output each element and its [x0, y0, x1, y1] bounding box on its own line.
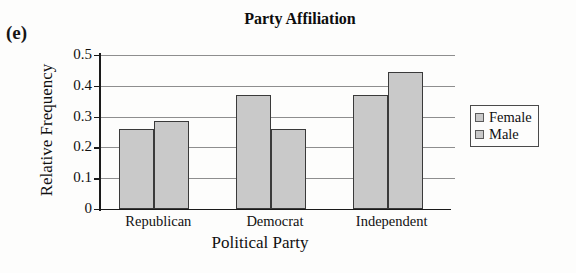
- y-axis-tick-label-wrap: 0.5: [48, 46, 92, 62]
- legend-swatch-icon: [475, 130, 484, 139]
- bar-republican-female: [119, 129, 154, 209]
- chart-title: Party Affiliation: [190, 10, 410, 28]
- y-axis-tick: [94, 209, 101, 210]
- legend-swatch-icon: [475, 113, 484, 122]
- bar-independent-female: [353, 95, 388, 209]
- figure-panel: (e) Party Affiliation Relative Frequency…: [0, 0, 576, 273]
- legend-item-male: Male: [475, 126, 532, 143]
- y-axis-tick-label: 0.1: [52, 169, 92, 186]
- x-axis-label: Political Party: [150, 233, 370, 253]
- y-axis-tick-label: 0.5: [52, 46, 92, 63]
- y-axis-tick-label: 0.4: [52, 77, 92, 94]
- x-axis-tick-label-independent: Independent: [313, 213, 470, 230]
- y-axis-tick-label: 0.2: [52, 138, 92, 155]
- plot-area: [100, 55, 450, 209]
- legend-label: Female: [489, 109, 532, 126]
- legend-label: Male: [489, 126, 519, 143]
- y-axis-tick-label-wrap: 0.3: [48, 108, 92, 124]
- y-axis-label: Relative Frequency: [37, 45, 57, 215]
- y-axis-tick-label-wrap: 0.4: [48, 77, 92, 93]
- y-axis-tick-label: 0.3: [52, 108, 92, 125]
- bar-independent-male: [388, 72, 423, 209]
- bar-democrat-male: [271, 129, 306, 209]
- y-axis-tick-label-wrap: 0.1: [48, 169, 92, 185]
- legend-item-female: Female: [475, 109, 532, 126]
- bar-democrat-female: [236, 95, 271, 209]
- y-axis-tick-label-wrap: 0.2: [48, 138, 92, 154]
- panel-letter: (e): [6, 22, 27, 44]
- chart-legend: FemaleMale: [470, 105, 539, 147]
- bar-republican-male: [154, 121, 189, 209]
